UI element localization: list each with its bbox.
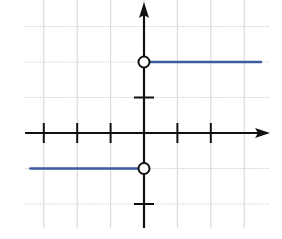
open-circle-point bbox=[139, 163, 150, 174]
open-circle-point bbox=[139, 57, 150, 68]
axes bbox=[25, 2, 270, 228]
step-function-graph bbox=[0, 0, 282, 239]
data-series bbox=[30, 62, 260, 169]
grid bbox=[25, 0, 270, 228]
